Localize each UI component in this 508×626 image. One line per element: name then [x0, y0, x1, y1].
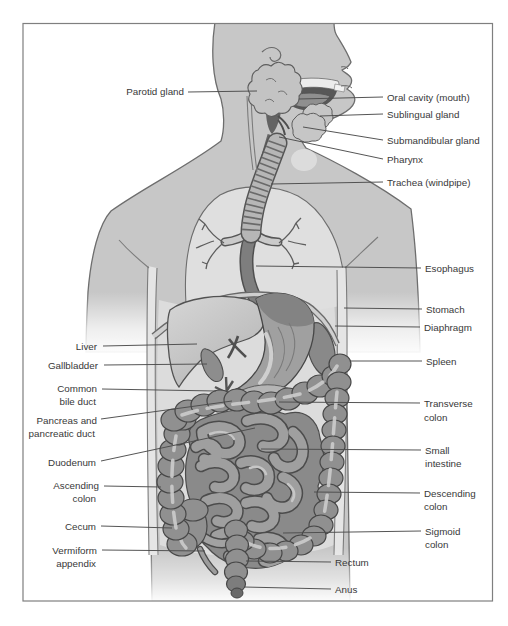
label-text-anus: Anus	[335, 584, 357, 595]
label-text-sublingual-gland: Sublingual gland	[387, 109, 459, 120]
label-text-diaphragm: Diaphragm	[424, 322, 472, 333]
label-text-descending-colon-1: Descending	[424, 488, 476, 499]
label-text-transverse-colon-2: colon	[424, 412, 447, 423]
label-text-spleen: Spleen	[426, 356, 457, 367]
label-text-vermiform-appendix-1: Vermiform	[52, 545, 97, 556]
label-text-liver: Liver	[76, 341, 98, 352]
label-ascending-colon: Ascending colon	[53, 480, 161, 504]
label-text-oral-cavity: Oral cavity (mouth)	[387, 92, 470, 103]
label-text-parotid-gland: Parotid gland	[126, 86, 184, 97]
label-submandibular-gland: Submandibular gland	[303, 127, 480, 146]
label-text-small-intestine-2: intestine	[425, 458, 462, 469]
neck-highlight	[291, 149, 317, 171]
label-text-esophagus: Esophagus	[425, 263, 474, 274]
label-text-vermiform-appendix-2: appendix	[56, 558, 96, 569]
label-text-gallbladder: Gallbladder	[48, 360, 99, 371]
label-text-stomach: Stomach	[426, 304, 465, 315]
label-text-rectum: Rectum	[335, 557, 369, 568]
label-text-transverse-colon-1: Transverse	[424, 398, 473, 409]
label-text-pancreas-2: pancreatic duct	[29, 428, 96, 439]
label-text-ascending-colon-2: colon	[73, 493, 96, 504]
label-text-pancreas-1: Pancreas and	[37, 415, 97, 426]
label-text-small-intestine-1: Small	[425, 445, 450, 456]
label-text-common-bile-duct-2: bile duct	[60, 396, 97, 407]
label-text-sigmoid-colon-2: colon	[425, 539, 448, 550]
digestive-system-figure: Parotid gland Oral cavity (mouth) Sublin…	[0, 0, 508, 626]
label-text-sigmoid-colon-1: Sigmoid	[425, 526, 460, 537]
label-text-trachea: Trachea (windpipe)	[387, 177, 471, 188]
label-text-cecum: Cecum	[65, 521, 96, 532]
label-text-ascending-colon-1: Ascending	[53, 480, 99, 491]
rectum-shape	[225, 520, 249, 582]
anatomy-diagram-canvas: Parotid gland Oral cavity (mouth) Sublin…	[0, 0, 508, 626]
label-text-pharynx: Pharynx	[387, 154, 423, 165]
label-text-duodenum: Duodenum	[48, 457, 96, 468]
label-text-common-bile-duct-1: Common	[57, 383, 97, 394]
label-text-descending-colon-2: colon	[424, 501, 447, 512]
label-text-submandibular-gland: Submandibular gland	[387, 135, 480, 146]
left-arm-fade	[52, 292, 150, 358]
